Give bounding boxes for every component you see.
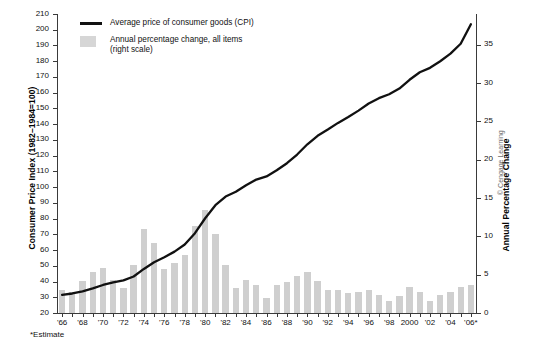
bottom-tick-mark — [369, 313, 370, 317]
bottom-tick-mark — [450, 313, 451, 317]
right-tick-mark — [476, 313, 481, 314]
left-tick-label: 70 — [23, 230, 49, 238]
left-tick-label: 200 — [23, 25, 49, 33]
right-tick-label: 5 — [484, 270, 510, 278]
bottom-tick-mark — [246, 313, 247, 317]
bottom-tick-label: '80 — [200, 319, 210, 327]
bottom-tick-mark — [389, 313, 390, 317]
left-tick-label: 60 — [23, 246, 49, 254]
right-tick-label: 35 — [484, 40, 510, 48]
bottom-tick-mark — [62, 313, 63, 317]
bottom-tick-mark — [83, 313, 84, 317]
right-tick-mark — [476, 83, 481, 84]
right-tick-mark — [476, 121, 481, 122]
bottom-tick-mark — [267, 313, 268, 317]
bottom-tick-label: '78 — [180, 319, 190, 327]
bottom-tick-mark — [287, 313, 288, 317]
bottom-tick-mark — [256, 313, 257, 317]
legend-item-annual-change: Annual percentage change, all items (rig… — [80, 35, 254, 56]
left-tick-label: 90 — [23, 198, 49, 206]
right-tick-mark — [476, 198, 481, 199]
right-tick-mark — [476, 275, 481, 276]
left-tick-label: 150 — [23, 104, 49, 112]
bottom-tick-label: '68 — [77, 319, 87, 327]
bottom-tick-label: '06* — [464, 319, 478, 327]
bottom-tick-label: '86 — [261, 319, 271, 327]
right-tick-mark — [476, 45, 481, 46]
bottom-tick-label: '92 — [323, 319, 333, 327]
left-tick-label: 100 — [23, 183, 49, 191]
left-tick-label: 50 — [23, 261, 49, 269]
left-tick-label: 80 — [23, 214, 49, 222]
left-tick-label: 170 — [23, 72, 49, 80]
bottom-tick-mark — [123, 313, 124, 317]
cpi-line-path — [62, 24, 471, 295]
legend-label-annual-change-line1: Annual percentage change, all items — [110, 35, 242, 44]
legend-label-cpi: Average price of consumer goods (CPI) — [110, 18, 254, 29]
bottom-tick-mark — [338, 313, 339, 317]
bottom-tick-mark — [93, 313, 94, 317]
bottom-tick-mark — [205, 313, 206, 317]
bottom-tick-label: '66 — [57, 319, 67, 327]
left-tick-label: 140 — [23, 120, 49, 128]
bottom-tick-mark — [420, 313, 421, 317]
bottom-tick-mark — [144, 313, 145, 317]
bottom-tick-mark — [113, 313, 114, 317]
left-tick-label: 110 — [23, 167, 49, 175]
legend-label-annual-change: Annual percentage change, all items (rig… — [110, 35, 242, 56]
left-tick-label: 120 — [23, 151, 49, 159]
bottom-tick-label: '72 — [118, 319, 128, 327]
legend-item-cpi-line: Average price of consumer goods (CPI) — [80, 18, 254, 29]
left-tick-label: 180 — [23, 57, 49, 65]
bottom-tick-mark — [379, 313, 380, 317]
bottom-tick-label: '90 — [302, 319, 312, 327]
legend: Average price of consumer goods (CPI) An… — [80, 18, 254, 62]
bottom-tick-mark — [307, 313, 308, 317]
left-tick-label: 210 — [23, 10, 49, 18]
left-tick-label: 190 — [23, 41, 49, 49]
bottom-tick-mark — [358, 313, 359, 317]
right-tick-label: 30 — [484, 79, 510, 87]
bottom-tick-label: '82 — [220, 319, 230, 327]
line-swatch-icon — [80, 22, 102, 25]
bottom-tick-label: '84 — [241, 319, 251, 327]
left-tick-label: 40 — [23, 277, 49, 285]
bottom-tick-mark — [154, 313, 155, 317]
bottom-tick-mark — [195, 313, 196, 317]
bottom-tick-label: '04 — [445, 319, 455, 327]
left-tick-label: 30 — [23, 293, 49, 301]
copyright-credit: © Cengage Learning — [497, 130, 504, 195]
bottom-tick-mark — [348, 313, 349, 317]
bottom-tick-label: '94 — [343, 319, 353, 327]
bottom-tick-mark — [399, 313, 400, 317]
bottom-tick-label: '96 — [363, 319, 373, 327]
bottom-tick-mark — [236, 313, 237, 317]
bottom-tick-mark — [440, 313, 441, 317]
bottom-tick-mark — [277, 313, 278, 317]
cpi-chart: Consumer Price Index (1982–1984=100) Ann… — [0, 0, 533, 349]
bottom-tick-mark — [318, 313, 319, 317]
right-tick-label: 0 — [484, 309, 510, 317]
bottom-tick-label: '98 — [384, 319, 394, 327]
bottom-tick-mark — [471, 313, 472, 317]
bottom-tick-mark — [215, 313, 216, 317]
bottom-tick-mark — [461, 313, 462, 317]
right-tick-label: 25 — [484, 117, 510, 125]
bottom-tick-label: '02 — [425, 319, 435, 327]
legend-label-annual-change-line2: (right scale) — [110, 45, 153, 54]
bottom-tick-label: '88 — [282, 319, 292, 327]
bottom-tick-label: '76 — [159, 319, 169, 327]
right-tick-label: 10 — [484, 232, 510, 240]
bottom-tick-mark — [72, 313, 73, 317]
left-tick-mark — [53, 313, 58, 314]
right-tick-mark — [476, 160, 481, 161]
footnote-estimate: *Estimate — [30, 330, 64, 339]
bar-swatch-icon — [80, 36, 96, 47]
bottom-tick-mark — [175, 313, 176, 317]
left-tick-label: 20 — [23, 309, 49, 317]
bottom-tick-label: 2000 — [401, 319, 419, 327]
bottom-tick-mark — [328, 313, 329, 317]
bottom-tick-mark — [185, 313, 186, 317]
bottom-tick-mark — [226, 313, 227, 317]
bottom-tick-mark — [103, 313, 104, 317]
